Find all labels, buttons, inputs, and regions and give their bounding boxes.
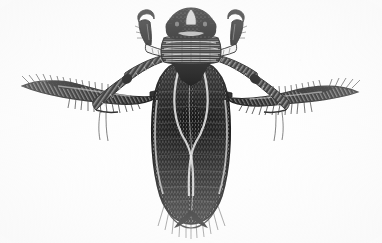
illustration-canvas (0, 0, 382, 243)
insect-illustration (0, 0, 382, 243)
scan-vignette (0, 0, 382, 243)
